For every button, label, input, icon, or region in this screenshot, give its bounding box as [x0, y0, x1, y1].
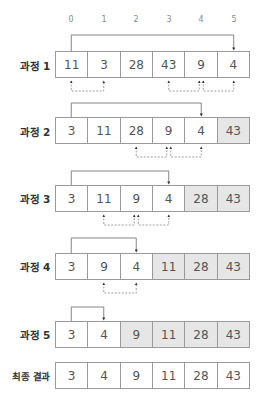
swap-connector	[138, 215, 169, 225]
arrowhead-icon	[198, 81, 201, 84]
array-step-5: 3 4 9 11 28 43	[55, 321, 250, 348]
array-cell-sorted: 28	[185, 254, 217, 279]
index-label-0: 0	[61, 15, 81, 24]
array-cell: 9	[185, 52, 217, 77]
swap-connector	[169, 81, 200, 91]
final-result-label: 최종 결과	[0, 369, 50, 383]
arrowhead-icon	[102, 81, 105, 84]
array-cell-sorted: 11	[153, 322, 185, 347]
arrowhead-icon	[169, 147, 172, 150]
array-cell: 3	[88, 52, 120, 77]
array-cell: 3	[56, 363, 88, 388]
array-cell: 28	[121, 118, 153, 143]
array-cell-sorted: 28	[185, 322, 217, 347]
step-label-1: 과정 1	[0, 58, 50, 73]
swap-connector	[171, 147, 202, 157]
array-cell: 3	[56, 254, 88, 279]
arrowhead-icon	[232, 81, 235, 84]
arrowhead-icon	[135, 283, 138, 286]
array-cell: 11	[153, 363, 185, 388]
step-label-3: 과정 3	[0, 191, 50, 206]
array-cell: 9	[121, 363, 153, 388]
index-label-2: 2	[126, 15, 146, 24]
array-cell-sorted: 9	[121, 322, 153, 347]
array-cell: 3	[56, 322, 88, 347]
array-cell: 4	[185, 118, 217, 143]
step-label-4: 과정 4	[0, 259, 50, 274]
swap-connector	[104, 283, 137, 293]
arrowhead-icon	[135, 147, 138, 150]
array-cell: 28	[185, 363, 217, 388]
swap-connector	[71, 81, 104, 91]
array-step-3: 3 11 9 4 28 43	[55, 185, 250, 212]
arrowhead-icon	[102, 283, 105, 286]
array-cell: 11	[88, 186, 120, 211]
index-label-3: 3	[159, 15, 179, 24]
index-label-5: 5	[224, 15, 244, 24]
bracket-arrow	[71, 103, 201, 117]
arrowhead-icon	[70, 81, 73, 84]
bracket-arrow	[71, 35, 234, 51]
array-cell: 4	[121, 254, 153, 279]
bracket-arrow	[71, 307, 104, 321]
array-cell-sorted: 28	[185, 186, 217, 211]
swap-connector	[104, 215, 135, 225]
array-cell: 4	[153, 186, 185, 211]
array-final: 3 4 9 11 28 43	[55, 362, 250, 389]
array-cell: 11	[56, 52, 88, 77]
bracket-arrow	[71, 171, 169, 185]
array-cell: 4	[88, 363, 120, 388]
array-cell: 4	[218, 52, 249, 77]
bubble-sort-diagram: 0 1 2 3 4 5 과정 1 11 3 28 43 9 4 과정 2 3 1…	[0, 0, 265, 410]
array-cell: 28	[121, 52, 153, 77]
arrowhead-icon	[167, 215, 170, 218]
step-label-2: 과정 2	[0, 124, 50, 139]
array-cell-sorted: 43	[218, 186, 249, 211]
array-cell: 43	[153, 52, 185, 77]
arrowhead-icon	[202, 81, 205, 84]
array-cell: 9	[88, 254, 120, 279]
array-step-4: 3 9 4 11 28 43	[55, 253, 250, 280]
swap-connector	[203, 81, 234, 91]
arrowhead-icon	[137, 215, 140, 218]
index-label-1: 1	[94, 15, 114, 24]
array-cell: 9	[121, 186, 153, 211]
array-cell-sorted: 43	[218, 254, 249, 279]
arrowhead-icon	[200, 147, 203, 150]
index-label-4: 4	[191, 15, 211, 24]
array-cell: 9	[153, 118, 185, 143]
bracket-arrow	[71, 238, 136, 253]
array-cell: 43	[218, 363, 249, 388]
array-cell: 4	[88, 322, 120, 347]
arrowhead-icon	[133, 215, 136, 218]
swap-connector	[136, 147, 167, 157]
array-step-1: 11 3 28 43 9 4	[55, 51, 250, 78]
array-cell: 11	[88, 118, 120, 143]
array-cell: 3	[56, 118, 88, 143]
arrowhead-icon	[165, 147, 168, 150]
array-step-2: 3 11 28 9 4 43	[55, 117, 250, 144]
step-label-5: 과정 5	[0, 327, 50, 342]
array-cell-sorted: 11	[153, 254, 185, 279]
array-cell: 3	[56, 186, 88, 211]
array-cell-sorted: 43	[218, 322, 249, 347]
arrowhead-icon	[102, 215, 105, 218]
array-cell-sorted: 43	[218, 118, 249, 143]
arrowhead-icon	[167, 81, 170, 84]
